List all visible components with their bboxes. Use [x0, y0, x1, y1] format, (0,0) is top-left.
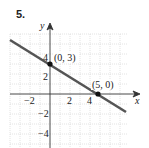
point-label-0-3: (0, 3) [54, 52, 76, 64]
axes [10, 23, 140, 148]
point-5-0 [95, 91, 100, 96]
y-tick-2: 2 [43, 71, 48, 82]
y-tick-4: 4 [43, 52, 48, 63]
y-tick-neg4: −4 [38, 128, 49, 139]
x-axis-label: x [134, 95, 140, 106]
point-0-3 [47, 61, 52, 66]
y-axis-label: y [39, 20, 45, 31]
y-tick-neg2: −2 [38, 108, 49, 119]
x-tick-neg2: −2 [24, 95, 35, 106]
graph: y x (0, 3) (5, 0) 4 2 −2 −4 −2 2 4 [0, 0, 149, 148]
x-tick-2: 2 [67, 95, 72, 106]
x-tick-4: 4 [87, 95, 92, 106]
point-label-5-0: (5, 0) [92, 79, 114, 91]
